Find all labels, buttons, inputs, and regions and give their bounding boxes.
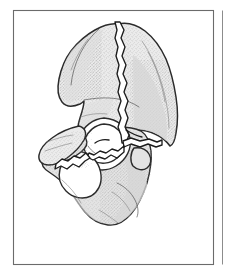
- pelvis-illustration: [0, 0, 230, 273]
- figure-root: [0, 0, 230, 273]
